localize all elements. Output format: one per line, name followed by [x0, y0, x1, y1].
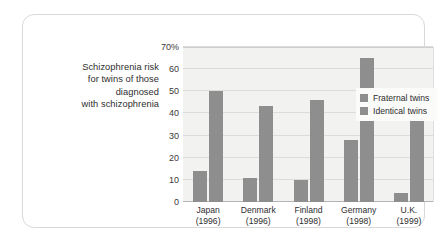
x-axis-label-year: (1998)	[283, 216, 333, 227]
legend-swatch-icon	[360, 107, 368, 115]
x-axis-label-germany: Germany(1998)	[334, 205, 384, 227]
bar-group-finland	[294, 48, 324, 202]
legend-swatch-icon	[360, 94, 368, 102]
y-tick-label-50: 50	[141, 86, 179, 96]
bar-finland-identicaltwins	[310, 100, 324, 202]
bar-denmark-identicaltwins	[259, 106, 273, 202]
x-axis-label-japan: Japan(1996)	[183, 205, 233, 227]
chart-legend: Fraternal twinsIdentical twins	[356, 88, 437, 121]
plot-area: Fraternal twinsIdentical twins	[183, 47, 434, 202]
bar-group-uk	[394, 48, 424, 202]
x-axis-label-denmark: Denmark(1996)	[233, 205, 283, 227]
x-axis-label-finland: Finland(1998)	[283, 205, 333, 227]
figure-frame: Schizophrenia riskfor twins of thosediag…	[22, 14, 425, 228]
bar-germany-identicaltwins	[360, 58, 374, 202]
bar-denmark-fraternaltwins	[243, 178, 257, 202]
bar-group-denmark	[243, 48, 273, 202]
x-axis-label-name: Japan	[183, 205, 233, 216]
bar-uk-identicaltwins	[410, 109, 424, 202]
gridline-70	[183, 46, 433, 47]
bar-uk-fraternaltwins	[394, 193, 408, 202]
x-axis-labels: Japan(1996)Denmark(1996)Finland(1998)Ger…	[183, 205, 434, 237]
x-axis-label-year: (1999)	[384, 216, 434, 227]
x-axis-label-name: U.K.	[384, 205, 434, 216]
bar-group-germany	[344, 48, 374, 202]
y-axis-labels: 010203040506070%	[141, 47, 179, 202]
x-axis-label-year: (1996)	[183, 216, 233, 227]
x-axis-label-name: Finland	[283, 205, 333, 216]
bar-japan-fraternaltwins	[193, 171, 207, 202]
y-tick-label-60: 60	[141, 64, 179, 74]
x-axis-label-name: Denmark	[233, 205, 283, 216]
bars-layer	[183, 48, 433, 202]
x-axis-label-uk: U.K.(1999)	[384, 205, 434, 227]
bar-finland-fraternaltwins	[294, 180, 308, 202]
legend-item-fraternal-twins: Fraternal twins	[360, 91, 429, 104]
y-tick-label-70: 70%	[141, 42, 179, 52]
x-axis-label-name: Germany	[334, 205, 384, 216]
y-tick-label-40: 40	[141, 108, 179, 118]
x-axis-label-year: (1998)	[334, 216, 384, 227]
legend-label: Fraternal twins	[373, 93, 429, 103]
bar-germany-fraternaltwins	[344, 140, 358, 202]
y-tick-label-10: 10	[141, 175, 179, 185]
y-tick-label-20: 20	[141, 153, 179, 163]
y-tick-label-30: 30	[141, 131, 179, 141]
legend-label: Identical twins	[373, 106, 427, 116]
chart-screenshot: Schizophrenia riskfor twins of thosediag…	[0, 0, 441, 243]
bar-japan-identicaltwins	[209, 91, 223, 202]
x-axis-label-year: (1996)	[233, 216, 283, 227]
y-tick-label-0: 0	[141, 197, 179, 207]
bar-group-japan	[193, 48, 223, 202]
legend-item-identical-twins: Identical twins	[360, 104, 429, 117]
